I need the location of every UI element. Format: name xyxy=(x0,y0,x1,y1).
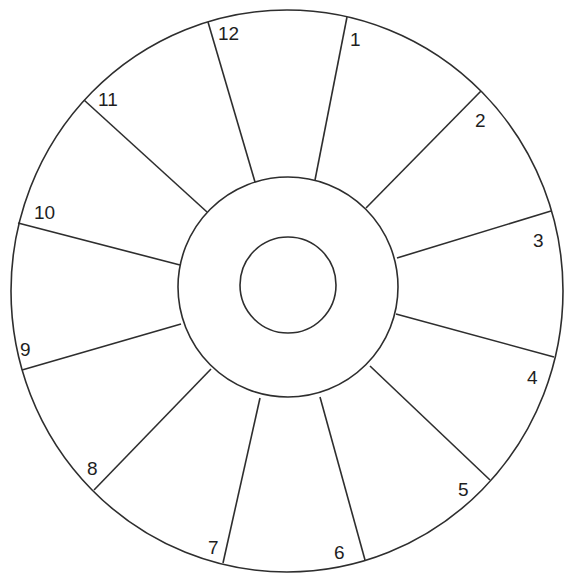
segment-label-9: 9 xyxy=(20,339,31,360)
segment-divider-line xyxy=(397,211,551,258)
segment-divider-line xyxy=(320,397,365,560)
segment-divider-line xyxy=(366,91,481,208)
segment-divider-line xyxy=(315,17,347,180)
segment-divider-line xyxy=(223,398,260,563)
segment-label-11: 11 xyxy=(98,89,118,110)
segment-label-7: 7 xyxy=(208,537,219,558)
segment-divider-line xyxy=(208,22,255,182)
outer-circle xyxy=(11,10,563,572)
segment-divider-line xyxy=(94,369,211,490)
segment-label-3: 3 xyxy=(533,230,544,251)
segment-label-6: 6 xyxy=(334,542,345,563)
segment-divider-line xyxy=(370,366,490,480)
middle-ring-circle xyxy=(178,177,398,397)
segment-labels: 123456789101112 xyxy=(20,23,544,563)
segment-label-5: 5 xyxy=(458,479,469,500)
inner-center-circle xyxy=(240,237,336,333)
segment-label-2: 2 xyxy=(475,110,486,131)
segment-divider-line xyxy=(18,223,180,265)
segment-label-12: 12 xyxy=(218,23,239,44)
segment-divider-line xyxy=(396,314,554,357)
segment-label-4: 4 xyxy=(527,367,538,388)
segment-label-8: 8 xyxy=(87,458,98,479)
twelve-segment-wheel-diagram: 123456789101112 xyxy=(0,0,571,582)
segment-label-1: 1 xyxy=(350,29,361,50)
segment-divider-line xyxy=(22,324,181,370)
segment-divider-line xyxy=(84,100,207,212)
segment-label-10: 10 xyxy=(34,202,55,223)
